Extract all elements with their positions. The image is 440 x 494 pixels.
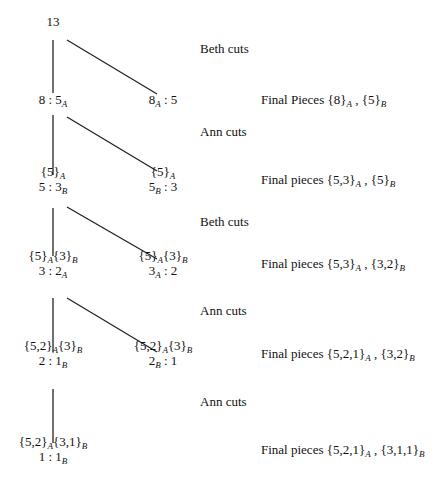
final-pieces-label: Final pieces {5,3}A , {5}B — [261, 172, 395, 187]
tree-edge — [67, 40, 157, 94]
turn-label: Beth cuts — [200, 214, 249, 229]
final-pieces-label: Final pieces {5,3}A , {3,2}B — [261, 256, 405, 271]
tree-edge — [67, 117, 157, 171]
tree-node: 13 — [47, 14, 60, 29]
tree-node: {5,2}A{3}B2B : 1 — [134, 338, 193, 368]
turn-label: Ann cuts — [200, 124, 247, 139]
turn-label: Ann cuts — [200, 394, 247, 409]
turn-label: Ann cuts — [200, 303, 247, 318]
turn-label: Beth cuts — [200, 41, 249, 56]
final-pieces-label: Final pieces {5,2,1}A , {3,1,1}B — [261, 442, 424, 457]
tree-node: {5}A{3}B3A : 2 — [139, 248, 188, 278]
final-pieces-label: Final Pieces {8}A , {5}B — [261, 92, 386, 107]
tree-node: 8 : 5A — [39, 92, 68, 107]
tree-node: {5}A5B : 3 — [149, 164, 178, 194]
tree-node: {5,2}A{3,1}B1 : 1B — [19, 434, 87, 464]
tree-node: {5}A{3}B3 : 2A — [29, 248, 78, 278]
final-pieces-label: Final pieces {5,2,1}A , {3,2}B — [261, 346, 415, 361]
tree-edges — [0, 0, 440, 494]
tree-node: {5}A5 : 3B — [39, 164, 68, 194]
tree-node: 8A : 5 — [149, 92, 178, 107]
tree-node: {5,2}A{3}B2 : 1B — [24, 338, 83, 368]
